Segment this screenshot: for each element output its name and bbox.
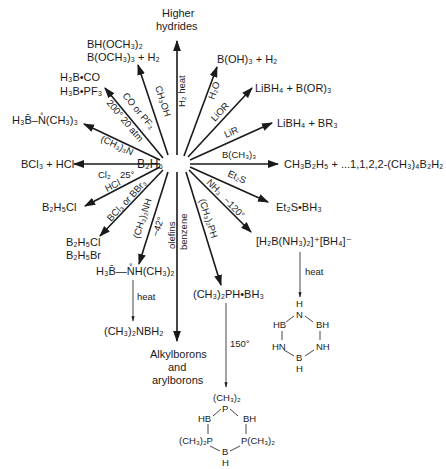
product-label: LiBH₄ + B(OR)₃ — [255, 82, 332, 94]
product-label: Et₂S•BH₃ — [276, 201, 322, 213]
ring-label: BH — [243, 413, 256, 424]
product-label: and — [168, 361, 186, 373]
ring-label: HB — [198, 413, 211, 424]
condition-label: LiOR — [208, 100, 231, 123]
condition-label: heat — [305, 266, 324, 277]
condition-label: LiR — [222, 124, 240, 140]
borazine-ring: H N HB BH HN NH B H — [272, 298, 330, 374]
product-label: BCl₃ + HCl — [21, 158, 74, 170]
product-label: H₃B•PF₃ — [60, 85, 102, 97]
reaction-trimethylboron: B(CH₃)₃ CH₃B₂H₅ + ...1,1,2,2-(CH₃)₄B₂H₂ — [190, 149, 443, 170]
ring-label: BH — [316, 319, 329, 330]
ring-label: B — [296, 352, 302, 363]
reaction-dimethylphosphine: (CH₃)₂PH (CH₃)₂PH•BH₃ 150° (CH₃)₂ P HB B… — [179, 172, 275, 468]
condition-label: −42° — [149, 215, 166, 238]
condition-label: CH₃OH — [153, 84, 173, 118]
ring-bonds — [282, 316, 320, 356]
product-label: B(OH)₃ + H₂ — [217, 53, 277, 65]
ring-label: H — [296, 298, 303, 309]
product-label: arylborons — [152, 374, 204, 386]
product-label: B(OCH₃)₃ + H₂ — [87, 51, 160, 63]
ring-label: (CH₃)₂P — [179, 435, 213, 446]
diborane-reaction-diagram: B₂H₆ H₂ heat Higher hydrides CH₃OH BH(OC… — [0, 0, 446, 469]
ring-label: H — [296, 363, 303, 374]
condition-label: 150° — [230, 338, 250, 349]
ring-label: NH — [316, 341, 330, 352]
condition-label: heat — [137, 291, 156, 302]
product-label: B₂H₅Br — [66, 249, 101, 261]
product-label: H₃B•CO — [60, 71, 101, 83]
product-label: (CH₃)₂PH•BH₃ — [193, 288, 264, 300]
reaction-ammonia: NH₃ −120° [H₂B(NH₃)₂]⁺[BH₄]⁻ heat H N HB… — [189, 170, 352, 374]
product-label: H₃B̄—N̊H(CH₃)₂ — [96, 263, 175, 277]
product-label: (CH₃)₂NBH₂ — [104, 325, 163, 337]
ring-label: N — [296, 309, 303, 320]
condition-label: B(CH₃)₃ — [222, 149, 256, 160]
product-label: Alkylborons — [150, 348, 207, 360]
product-label: H₃B̄–N̊(CH₃)₃ — [12, 112, 78, 126]
product-label: hydrides — [156, 20, 198, 32]
condition-label: NH₃ — [205, 177, 225, 197]
ring-label: HN — [272, 341, 286, 352]
ring-label: H — [222, 457, 229, 468]
product-label: Higher — [162, 7, 195, 19]
condition-label: H₂ heat — [176, 75, 187, 107]
condition-label: (CH₃)₃N — [99, 133, 135, 158]
ring-label: HB — [273, 319, 286, 330]
condition-label: benzene — [178, 214, 189, 250]
ring-label: (CH₃)₂ — [213, 392, 241, 403]
cyclotriphosphaborane-ring: (CH₃)₂ P HB BH (CH₃)₂P P(CH₃)₂ B H — [179, 392, 275, 468]
product-label: LiBH₄ + BR₃ — [277, 117, 338, 129]
condition-label: Et₂S — [226, 168, 248, 186]
ring-label: P(CH₃)₂ — [241, 435, 275, 446]
product-label: BH(OCH₃)₂ — [87, 38, 143, 50]
condition-label: H₂O — [206, 80, 222, 101]
condition-label: Cl₂ — [98, 169, 111, 180]
product-label: B₂H₅Cl — [42, 201, 76, 213]
condition-label: 25° — [120, 169, 135, 180]
reaction-lir: LiR LiBH₄ + BR₃ — [190, 117, 338, 160]
reaction-water: H₂O B(OH)₃ + H₂ — [184, 53, 277, 156]
condition-label: olefins — [166, 221, 177, 249]
product-label: [H₂B(NH₃)₂]⁺[BH₄]⁻ — [256, 235, 352, 247]
product-label: B₂H₅Cl — [66, 236, 100, 248]
ring-label: B — [222, 446, 228, 457]
ring-label: P — [222, 403, 228, 414]
product-label: CH₃B₂H₅ + ...1,1,2,2-(CH₃)₄B₂H₂ — [284, 158, 443, 170]
